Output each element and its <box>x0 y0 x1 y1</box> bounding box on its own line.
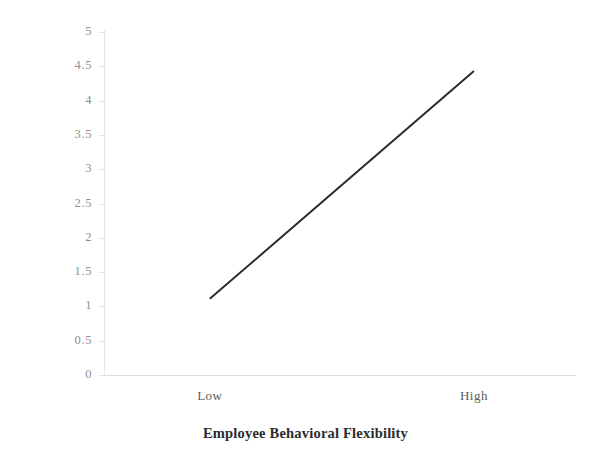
y-tick-mark <box>99 238 105 239</box>
y-tick-label: 5 <box>0 24 92 39</box>
y-tick-mark <box>99 101 105 102</box>
y-tick-label-wrap: 1.5 <box>0 264 92 280</box>
y-tick-mark <box>99 66 105 67</box>
y-tick-label-wrap: 1 <box>0 298 92 314</box>
y-tick-mark <box>99 32 105 33</box>
y-tick-mark <box>99 135 105 136</box>
y-tick-mark <box>99 306 105 307</box>
y-tick-label: 2 <box>0 230 92 245</box>
y-tick-label-wrap: 0 <box>0 367 92 383</box>
y-tick-label: 1 <box>0 298 92 313</box>
y-tick-mark <box>99 341 105 342</box>
x-tick-label: High <box>414 388 534 404</box>
y-tick-label-wrap: 2.5 <box>0 196 92 212</box>
y-tick-label: 0 <box>0 367 92 382</box>
y-tick-mark <box>99 169 105 170</box>
x-tick-label: Low <box>150 388 270 404</box>
y-tick-label: 3 <box>0 161 92 176</box>
y-tick-label-wrap: 4.5 <box>0 58 92 74</box>
x-axis-title: Employee Behavioral Flexibility <box>0 425 611 442</box>
y-tick-label: 4.5 <box>0 58 92 73</box>
series-line <box>210 71 474 299</box>
y-tick-label-wrap: 0.5 <box>0 333 92 349</box>
y-tick-label: 3.5 <box>0 127 92 142</box>
y-tick-label-wrap: 3.5 <box>0 127 92 143</box>
y-tick-mark <box>99 204 105 205</box>
chart-figure: 00.511.522.533.544.55 LowHigh Flexible H… <box>0 0 611 455</box>
y-tick-label-wrap: 4 <box>0 93 92 109</box>
y-tick-mark <box>99 375 105 376</box>
x-axis-line <box>105 375 576 376</box>
y-tick-label: 0.5 <box>0 333 92 348</box>
y-tick-label: 2.5 <box>0 196 92 211</box>
y-tick-label-wrap: 5 <box>0 24 92 40</box>
y-tick-label: 1.5 <box>0 264 92 279</box>
y-tick-label-wrap: 3 <box>0 161 92 177</box>
y-tick-mark <box>99 272 105 273</box>
y-tick-label-wrap: 2 <box>0 230 92 246</box>
y-tick-label: 4 <box>0 93 92 108</box>
